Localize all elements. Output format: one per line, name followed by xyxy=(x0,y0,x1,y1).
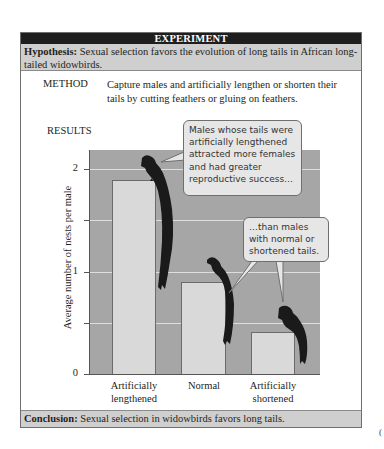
callout-pointer-2 xyxy=(229,261,283,302)
callout-normal-shortened: …than males with normal or shortened tai… xyxy=(243,217,329,262)
callout-lengthened: Males whose tails were artificially leng… xyxy=(183,120,302,196)
cut-off-panel-label: ( xyxy=(379,427,382,437)
bird-normal-tail-icon xyxy=(207,257,234,345)
bird-short-tail-icon xyxy=(278,306,307,364)
bird-long-tail-icon xyxy=(141,155,173,290)
